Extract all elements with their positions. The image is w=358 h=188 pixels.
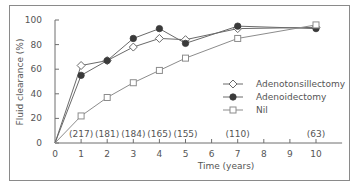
sample-size-label: (110) [226,129,250,139]
square-marker [230,107,236,113]
x-axis-label: Time (years) [197,161,255,171]
y-tick-label: 60 [31,64,43,74]
x-tick-label: 0 [52,149,58,159]
x-tick-label: 9 [287,149,293,159]
circle-marker [235,23,241,29]
circle-marker [230,94,236,100]
diamond-marker [129,43,137,51]
circle-marker [78,72,84,78]
x-tick-label: 10 [310,149,322,159]
diamond-marker [155,34,163,42]
sample-size-label: (217) [69,129,93,139]
x-tick-label: 6 [209,149,215,159]
y-tick-label: 40 [31,89,43,99]
x-tick-label: 7 [235,149,241,159]
x-tick-label: 3 [130,149,136,159]
legend-label: Adenoidectomy [256,92,327,102]
sample-size-label: (184) [121,129,145,139]
circle-marker [104,57,110,63]
y-tick-label: 80 [31,40,43,50]
legend-label: Nil [256,105,268,115]
sample-size-label: (181) [95,129,119,139]
x-tick-label: 5 [183,149,189,159]
y-tick-label: 0 [36,138,42,148]
x-tick-label: 4 [157,149,163,159]
circle-marker [156,25,162,31]
sample-size-label: (63) [307,129,325,139]
legend-item: Nil [223,105,268,115]
sample-size-labels: (217)(181)(184)(165)(155)(110)(63) [69,129,325,139]
legend-label: Adenotonsillectomy [256,79,346,89]
legend-item: Adenotonsillectomy [223,79,346,89]
square-marker [313,22,319,28]
square-marker [104,94,110,100]
y-tick-label: 20 [31,113,43,123]
diamond-marker [77,62,85,70]
square-marker [183,55,189,61]
sample-size-label: (155) [173,129,197,139]
x-tick-label: 1 [78,149,84,159]
square-marker [78,113,84,119]
square-marker [130,80,136,86]
circle-marker [182,40,188,46]
x-tick-label: 2 [104,149,110,159]
x-tick-label: 8 [261,149,267,159]
legend: AdenotonsillectomyAdenoidectomyNil [223,79,346,115]
sample-size-label: (165) [147,129,171,139]
fluid-clearance-chart: 020406080100012345678910 (217)(181)(184)… [0,0,358,188]
legend-item: Adenoidectomy [223,92,327,102]
square-marker [235,35,241,41]
y-axis-label: Fluid clearance (%) [15,39,25,126]
circle-marker [130,35,136,41]
square-marker [156,67,162,73]
y-tick-label: 100 [25,15,42,25]
diamond-marker [229,80,237,88]
